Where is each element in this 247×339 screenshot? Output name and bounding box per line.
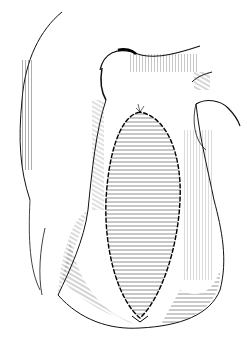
left-contour bbox=[20, 12, 62, 295]
heart-illustration bbox=[0, 0, 247, 339]
sutured-patch bbox=[100, 104, 190, 322]
upper-lobe bbox=[100, 46, 200, 100]
